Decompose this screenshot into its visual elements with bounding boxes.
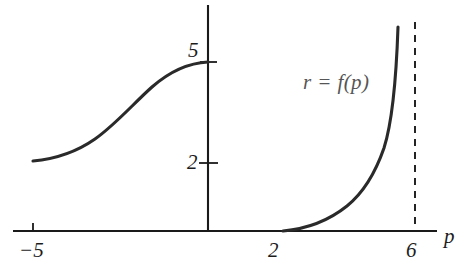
y-axis-tick-label-5: 5 [188,40,199,61]
x-axis-tick-label-neg5: −5 [19,240,44,261]
curve-left-branch [33,62,208,161]
curve-right-branch [283,27,398,231]
plot-canvas [0,0,459,278]
y-axis-tick-label-2: 2 [187,152,198,173]
curve-function-annotation: r = f(p) [303,72,369,93]
function-graph-figure: −5 2 6 5 2 p r = f(p) [0,0,459,278]
x-axis-tick-label-2: 2 [268,240,279,261]
x-axis-name-label: p [444,226,455,247]
x-axis-tick-label-6: 6 [406,240,417,261]
